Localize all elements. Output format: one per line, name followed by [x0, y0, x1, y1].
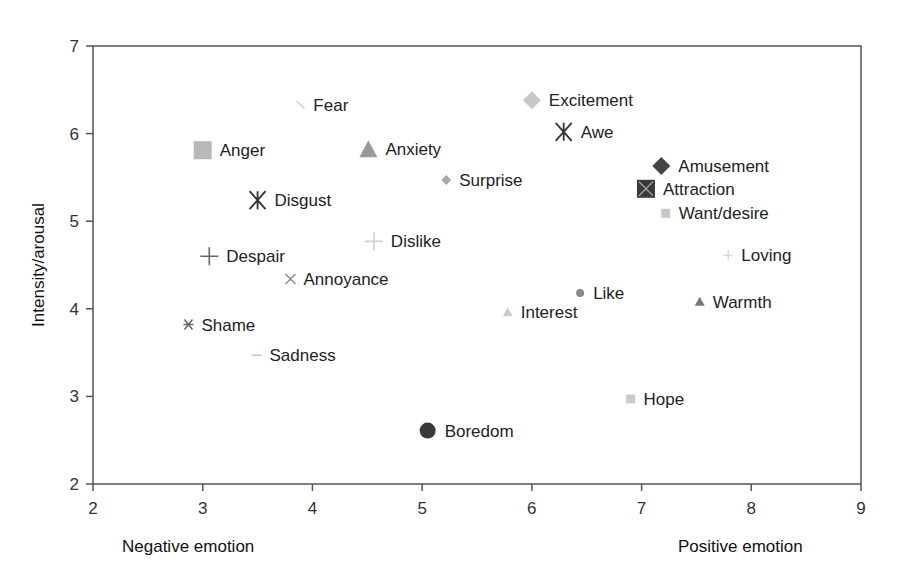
- data-point-attraction: Attraction: [637, 180, 735, 199]
- point-label: Sadness: [269, 346, 335, 365]
- diamond-small-marker-icon: [441, 175, 451, 185]
- point-label: Anger: [220, 141, 266, 160]
- triangle-small-marker-icon: [503, 307, 513, 316]
- point-label: Awe: [581, 123, 614, 142]
- x-tick-label: 5: [417, 499, 426, 518]
- diamond-marker-icon: [523, 91, 541, 109]
- x-annotation-negative: Negative emotion: [122, 537, 254, 557]
- data-point-despair: Despair: [200, 247, 285, 266]
- y-tick-label: 2: [70, 475, 79, 494]
- asterisk-marker-icon: [250, 191, 266, 209]
- point-label: Boredom: [445, 422, 514, 441]
- x-tick-label: 6: [527, 499, 536, 518]
- data-point-hope: Hope: [626, 390, 684, 409]
- y-axis-title: Intensity/arousal: [29, 203, 48, 327]
- data-point-like: Like: [576, 284, 624, 303]
- point-label: Shame: [201, 316, 255, 335]
- x-annotation-positive: Positive emotion: [678, 537, 803, 557]
- data-point-disgust: Disgust: [250, 191, 332, 210]
- triangle-small-marker-icon: [695, 297, 705, 306]
- data-point-fear: Fear: [296, 96, 348, 115]
- square-small-marker-icon: [661, 209, 670, 218]
- point-label: Attraction: [663, 180, 735, 199]
- data-point-warmth: Warmth: [695, 293, 772, 312]
- data-point-interest: Interest: [503, 303, 578, 322]
- data-point-loving: Loving: [723, 246, 791, 265]
- data-point-awe: Awe: [556, 123, 614, 142]
- point-label: Dislike: [391, 232, 441, 251]
- y-tick-label: 4: [70, 300, 79, 319]
- scatter-chart: 23456789234567 FearExcitementAweAngerAnx…: [0, 0, 901, 571]
- data-point-dislike: Dislike: [365, 232, 441, 251]
- circle-small-marker-icon: [576, 289, 584, 297]
- point-label: Fear: [313, 96, 348, 115]
- circle-marker-icon: [420, 423, 436, 439]
- square-marker-icon: [194, 141, 212, 159]
- x-tick-label: 7: [637, 499, 646, 518]
- point-label: Despair: [226, 247, 285, 266]
- y-tick-label: 7: [70, 37, 79, 56]
- data-point-sadness: Sadness: [251, 346, 335, 365]
- x-tick-label: 4: [308, 499, 317, 518]
- point-label: Interest: [521, 303, 578, 322]
- data-points: FearExcitementAweAngerAnxietyAmusementSu…: [183, 91, 791, 440]
- data-point-anger: Anger: [194, 141, 266, 160]
- x-tick-label: 3: [198, 499, 207, 518]
- point-label: Warmth: [713, 293, 772, 312]
- asterisk-marker-icon: [556, 123, 572, 141]
- y-tick-label: 5: [70, 212, 79, 231]
- point-label: Excitement: [549, 91, 633, 110]
- x-tick-label: 2: [88, 499, 97, 518]
- axis-ticks: 23456789234567: [70, 37, 866, 518]
- point-label: Annoyance: [303, 270, 388, 289]
- point-label: Anxiety: [385, 140, 441, 159]
- data-point-amusement: Amusement: [652, 157, 769, 176]
- square-x-marker-icon: [637, 180, 655, 198]
- plus-small-marker-icon: [723, 250, 733, 260]
- plus-marker-icon: [365, 232, 383, 250]
- x-small-marker-icon: [296, 101, 304, 109]
- plus-marker-icon: [200, 247, 218, 265]
- data-point-annoyance: Annoyance: [285, 270, 388, 289]
- data-point-anxiety: Anxiety: [359, 140, 441, 159]
- x-marker-icon: [285, 274, 295, 284]
- data-point-surprise: Surprise: [441, 171, 522, 190]
- data-point-excitement: Excitement: [523, 91, 633, 110]
- triangle-marker-icon: [359, 140, 377, 157]
- diamond-marker-icon: [652, 157, 670, 175]
- point-label: Hope: [644, 390, 685, 409]
- point-label: Want/desire: [679, 204, 769, 223]
- data-point-shame: Shame: [183, 316, 255, 335]
- square-small-marker-icon: [626, 395, 635, 404]
- data-point-boredom: Boredom: [420, 422, 514, 441]
- point-label: Like: [593, 284, 624, 303]
- y-tick-label: 6: [70, 125, 79, 144]
- asterisk-small-marker-icon: [183, 320, 193, 330]
- point-label: Amusement: [678, 157, 769, 176]
- point-label: Surprise: [459, 171, 522, 190]
- point-label: Loving: [741, 246, 791, 265]
- point-label: Disgust: [275, 191, 332, 210]
- x-tick-label: 8: [747, 499, 756, 518]
- y-tick-label: 3: [70, 387, 79, 406]
- x-tick-label: 9: [856, 499, 865, 518]
- data-point-want-desire: Want/desire: [661, 204, 769, 223]
